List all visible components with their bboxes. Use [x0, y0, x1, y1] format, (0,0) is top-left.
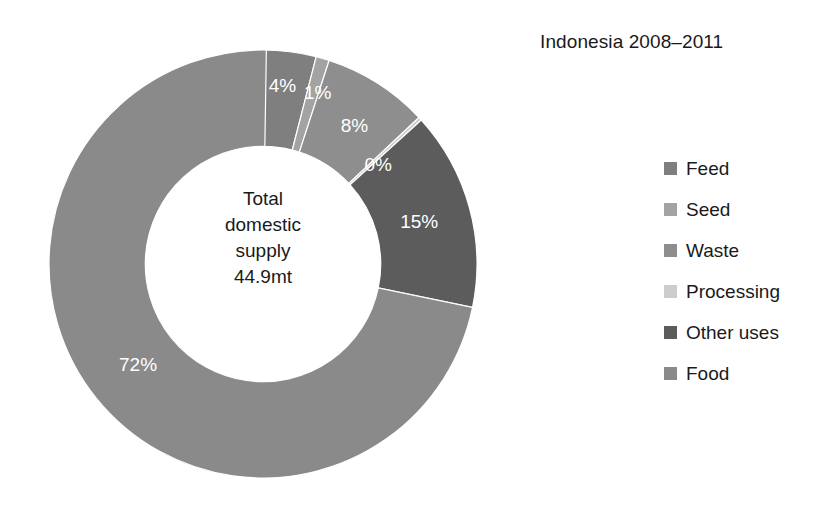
donut-slice-value-label: 0%: [365, 154, 393, 175]
donut-chart: 4%1%8%0%15%72%: [48, 49, 478, 479]
legend-item-label: Other uses: [686, 322, 779, 344]
donut-slice-group: [49, 50, 477, 478]
legend-item-label: Seed: [686, 199, 730, 221]
legend-swatch-icon: [664, 326, 677, 339]
legend-item[interactable]: Seed: [664, 189, 829, 230]
chart-title: Indonesia 2008–2011: [540, 30, 820, 54]
legend-item[interactable]: Food: [664, 353, 829, 394]
legend-item-label: Feed: [686, 158, 729, 180]
donut-slice-value-label: 1%: [304, 82, 332, 103]
legend-swatch-icon: [664, 367, 677, 380]
donut-slice-value-label: 15%: [400, 211, 438, 232]
legend-swatch-icon: [664, 203, 677, 216]
legend-swatch-icon: [664, 244, 677, 257]
legend-item-label: Food: [686, 363, 729, 385]
legend-item[interactable]: Other uses: [664, 312, 829, 353]
legend-item-label: Waste: [686, 240, 739, 262]
donut-slice-value-label: 72%: [119, 354, 157, 375]
legend-swatch-icon: [664, 285, 677, 298]
legend-swatch-icon: [664, 162, 677, 175]
chart-legend: FeedSeedWasteProcessingOther usesFood: [664, 148, 829, 394]
legend-item[interactable]: Waste: [664, 230, 829, 271]
donut-slice-value-label: 4%: [269, 75, 297, 96]
legend-item[interactable]: Feed: [664, 148, 829, 189]
donut-chart-svg: 4%1%8%0%15%72%: [48, 49, 478, 479]
legend-item[interactable]: Processing: [664, 271, 829, 312]
legend-item-label: Processing: [686, 281, 780, 303]
donut-slice-value-label: 8%: [341, 115, 369, 136]
